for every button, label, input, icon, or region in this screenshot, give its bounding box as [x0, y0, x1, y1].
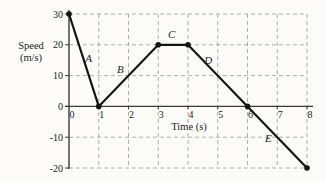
data-point [185, 42, 191, 48]
x-tick-label: 4 [189, 109, 194, 120]
y-tick-label: 20 [53, 39, 63, 50]
data-point [245, 104, 251, 110]
segment-label-C: C [168, 28, 176, 40]
segment-label-E: E [264, 132, 272, 144]
y-tick-label: 10 [53, 70, 63, 81]
y-axis-title-line-2: (m/s) [20, 52, 43, 64]
data-point [304, 165, 310, 171]
y-tick-label: -20 [50, 163, 63, 174]
x-tick-label: 0 [70, 109, 75, 120]
x-tick-label: 7 [278, 109, 283, 120]
y-axis-title-line-1: Speed [18, 40, 44, 51]
y-tick-label: 0 [58, 101, 63, 112]
x-tick-label: 5 [218, 109, 223, 120]
data-point [66, 11, 72, 17]
segment-label-D: D [203, 54, 212, 66]
speed-time-graph: 3020100-10-20012345678ABCDETime (s)Speed… [0, 0, 326, 181]
x-axis-title: Time (s) [171, 121, 207, 133]
x-tick-label: 8 [308, 109, 313, 120]
segment-label-B: B [117, 63, 124, 75]
data-point [155, 42, 161, 48]
data-point [96, 104, 102, 110]
y-tick-label: -10 [50, 132, 63, 143]
x-tick-label: 1 [99, 109, 104, 120]
y-tick-label: 30 [53, 9, 63, 20]
x-tick-label: 3 [159, 109, 164, 120]
x-tick-label: 2 [129, 109, 134, 120]
speed-time-figure: 3020100-10-20012345678ABCDETime (s)Speed… [0, 0, 326, 181]
segment-label-A: A [84, 52, 92, 64]
